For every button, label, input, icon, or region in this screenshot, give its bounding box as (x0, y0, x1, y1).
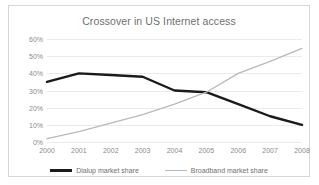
legend-line-icon (165, 170, 187, 171)
x-axis-tick-label: 2001 (71, 147, 87, 154)
gridline (47, 142, 302, 143)
chart-container: Crossover in US Internet access 0%10%20%… (8, 5, 310, 177)
chart-legend: Dialup market shareBroadband market shar… (9, 167, 309, 174)
x-axis-tick-label: 2000 (39, 147, 55, 154)
y-axis-tick-label: 0% (33, 139, 43, 146)
series-lines (47, 39, 302, 142)
x-axis-tick-label: 2005 (199, 147, 215, 154)
legend-line-icon (50, 169, 72, 172)
y-axis-tick-label: 60% (29, 36, 43, 43)
x-axis-tick-label: 2007 (262, 147, 278, 154)
legend-item[interactable]: Dialup market share (50, 167, 139, 174)
y-axis-tick-label: 50% (29, 53, 43, 60)
y-axis-tick-label: 20% (29, 104, 43, 111)
legend-label: Broadband market share (191, 167, 268, 174)
legend-item[interactable]: Broadband market share (165, 167, 268, 174)
x-axis-tick-label: 2006 (230, 147, 246, 154)
series-line (47, 48, 302, 138)
x-axis-tick-label: 2003 (135, 147, 151, 154)
x-axis-tick-label: 2002 (103, 147, 119, 154)
x-axis-tick-label: 2008 (294, 147, 310, 154)
x-axis-tick-label: 2004 (167, 147, 183, 154)
series-line (47, 73, 302, 125)
y-axis-tick-label: 40% (29, 70, 43, 77)
legend-label: Dialup market share (76, 167, 139, 174)
chart-title: Crossover in US Internet access (9, 15, 309, 27)
plot-area: 0%10%20%30%40%50%60% 2000200120022003200… (47, 39, 302, 142)
y-axis-tick-label: 10% (29, 121, 43, 128)
y-axis-tick-label: 30% (29, 87, 43, 94)
